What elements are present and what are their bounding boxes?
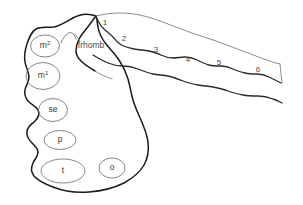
label-m1: m1 <box>38 70 49 81</box>
line-drawing-svg: m2 m1 se p t o 1 2 3 4 5 6 frhomb <box>0 0 303 205</box>
band-right-edge <box>280 64 282 83</box>
band-lower-connector <box>95 71 112 79</box>
label-number-2: 2 <box>122 34 127 43</box>
figure-canvas: m2 m1 se p t o 1 2 3 4 5 6 frhomb <box>0 0 303 205</box>
label-number-6: 6 <box>256 65 261 74</box>
label-t: t <box>62 165 65 175</box>
label-number-1: 1 <box>103 18 108 27</box>
label-number-4: 4 <box>186 55 191 64</box>
label-se: se <box>49 104 58 114</box>
label-m2: m2 <box>40 40 51 51</box>
label-o: o <box>110 162 115 172</box>
band-middle-wavy-line <box>96 17 281 83</box>
frhomb-notch <box>61 33 76 43</box>
label-number-3: 3 <box>154 45 159 54</box>
label-p: p <box>58 134 63 144</box>
label-number-5: 5 <box>217 58 222 67</box>
label-frhomb: frhomb <box>78 40 105 50</box>
